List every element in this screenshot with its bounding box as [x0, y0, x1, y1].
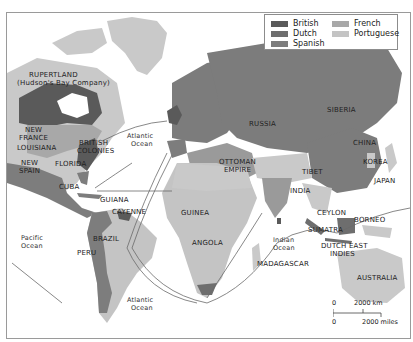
- legend-item-portuguese: Portuguese: [332, 29, 399, 38]
- india: [262, 178, 292, 218]
- label-india: INDIA: [290, 187, 311, 195]
- label-guiana: GUIANA: [100, 196, 129, 204]
- legend-label-portuguese: Portuguese: [354, 29, 399, 38]
- legend-item-dutch: Dutch: [271, 29, 317, 38]
- scale-line: [333, 308, 383, 318]
- route-colonies: [95, 163, 132, 188]
- label-pacific-1: Pacific: [21, 234, 43, 242]
- legend-label-french: French: [354, 19, 381, 28]
- label-hudsons-bay: (Hudson's Bay Company): [17, 79, 110, 87]
- ceylon-island: [277, 218, 281, 224]
- label-siberia: SIBERIA: [327, 106, 356, 114]
- label-new-france-1: NEW: [25, 126, 42, 134]
- label-british-colonies-2: COLONIES: [77, 147, 114, 155]
- label-borneo: BORNEO: [354, 216, 385, 224]
- route-pacific: [12, 263, 62, 303]
- legend-item-spanish: Spanish: [271, 39, 325, 48]
- legend-swatch-spanish: [271, 41, 288, 47]
- label-tibet: TIBET: [302, 168, 323, 176]
- label-rupertland: RUPERTLAND: [29, 71, 78, 79]
- label-madagascar: MADAGASCAR: [257, 260, 309, 268]
- label-cayenne: CAYENNE: [112, 208, 146, 216]
- label-new-spain-2: SPAIN: [19, 167, 40, 175]
- label-angola: ANGOLA: [192, 239, 223, 247]
- label-cuba: CUBA: [59, 183, 79, 191]
- arctic-islands: [52, 28, 107, 55]
- label-ottoman-1: OTTOMAN: [219, 158, 256, 166]
- label-sumatra: SUMATRA: [308, 226, 343, 234]
- scale-zero-km: 0: [332, 299, 336, 307]
- label-japan: JAPAN: [374, 177, 396, 185]
- label-guinea: GUINEA: [181, 209, 209, 217]
- label-florida: FLORIDA: [55, 160, 87, 168]
- label-pacific-2: Ocean: [21, 242, 43, 250]
- map-legend: British Dutch Spanish French Portuguese: [264, 14, 398, 50]
- label-indian-1: Indian: [273, 236, 294, 244]
- scale-km-label: 2000 km: [354, 299, 383, 307]
- legend-label-spanish: Spanish: [293, 39, 325, 48]
- label-dutch-east-1: DUTCH EAST: [321, 242, 368, 250]
- label-british-colonies-1: BRITISH: [79, 139, 108, 147]
- label-russia: RUSSIA: [249, 120, 276, 128]
- label-louisiana: LOUISIANA: [17, 144, 56, 152]
- label-peru: PERU: [77, 249, 96, 257]
- label-indian-2: Ocean: [273, 244, 295, 252]
- legend-label-dutch: Dutch: [293, 29, 317, 38]
- legend-item-british: British: [271, 19, 319, 28]
- cuba-island: [77, 193, 102, 199]
- iberia: [167, 139, 187, 158]
- greenland: [107, 17, 167, 75]
- label-atlantic-south-2: Ocean: [131, 304, 153, 312]
- legend-swatch-british: [271, 21, 288, 27]
- label-ceylon: CEYLON: [317, 209, 346, 217]
- legend-swatch-french: [332, 21, 349, 27]
- label-australia: AUSTRALIA: [357, 274, 398, 282]
- new-guinea: [362, 225, 392, 238]
- legend-item-french: French: [332, 19, 381, 28]
- label-new-france-2: FRANCE: [19, 134, 48, 142]
- legend-swatch-portuguese: [332, 31, 349, 37]
- scale-bar: 0 2000 km 0 2000 miles: [332, 299, 411, 333]
- label-china: CHINA: [353, 139, 376, 147]
- label-atlantic-north-1: Atlantic: [127, 132, 153, 140]
- label-brazil: BRAZIL: [93, 235, 119, 243]
- label-korea: KOREA: [363, 158, 388, 166]
- label-atlantic-north-2: Ocean: [131, 140, 153, 148]
- scale-zero-miles: 0: [332, 318, 336, 326]
- legend-swatch-dutch: [271, 31, 288, 37]
- scale-miles-label: 2000 miles: [362, 318, 398, 326]
- legend-label-british: British: [293, 19, 319, 28]
- label-dutch-east-2: INDIES: [330, 250, 355, 258]
- label-ottoman-2: EMPIRE: [224, 166, 251, 174]
- world-map: [7, 13, 410, 338]
- russia-siberia: [207, 38, 402, 153]
- label-atlantic-south-1: Atlantic: [127, 296, 153, 304]
- map-frame: RUPERTLAND (Hudson's Bay Company) NEW FR…: [6, 12, 411, 339]
- label-new-spain-1: NEW: [21, 159, 38, 167]
